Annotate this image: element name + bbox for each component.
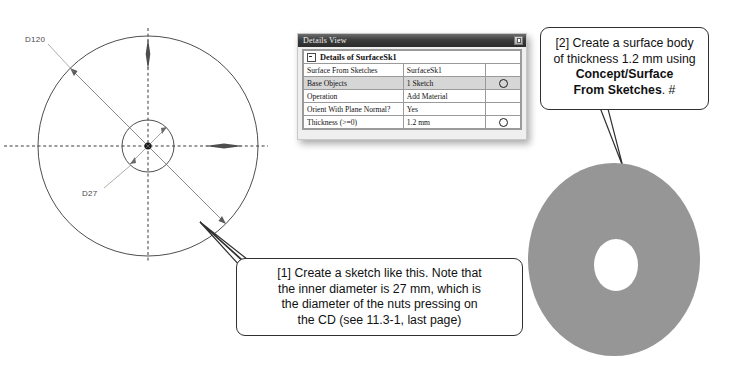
property-value[interactable]: 1 Sketch xyxy=(403,77,485,90)
callout-one: [1] Create a sketch like this. Note that… xyxy=(236,258,523,336)
property-value[interactable]: SurfaceSk1 xyxy=(403,64,485,77)
property-action xyxy=(486,103,521,116)
property-value[interactable]: Add Material xyxy=(403,90,485,103)
property-name: Operation xyxy=(304,90,404,103)
property-action xyxy=(486,116,521,129)
details-group-row: Details of SurfaceSk1 xyxy=(304,51,521,64)
callout-two-line-2: of thickness 1.2 mm using xyxy=(548,52,701,68)
details-table: Details of SurfaceSk1 Surface From Sketc… xyxy=(303,50,521,129)
callout-two-line-4: From Sketches xyxy=(574,83,662,97)
property-value[interactable]: 1.2 mm xyxy=(403,116,485,129)
details-group-cell: Details of SurfaceSk1 xyxy=(304,51,521,64)
details-view-body: Details of SurfaceSk1 Surface From Sketc… xyxy=(302,49,522,130)
inner-dimension-arrow-start xyxy=(130,157,136,164)
table-row: Orient With Plane Normal? Yes xyxy=(304,103,521,116)
details-view-title: Details View xyxy=(303,36,347,45)
surface-body-disk xyxy=(528,163,700,356)
inner-dimension-arrow-end xyxy=(161,127,167,134)
apply-circle-icon[interactable] xyxy=(499,79,508,88)
inner-dimension-label: D27 xyxy=(82,189,98,198)
apply-circle-icon[interactable] xyxy=(499,118,508,127)
callout-two-tail-shape xyxy=(599,105,623,167)
property-name: Surface From Sketches xyxy=(304,64,404,77)
disk-center-hole xyxy=(594,239,638,291)
details-view-titlebar: Details View xyxy=(298,34,526,47)
collapse-toggle-icon[interactable] xyxy=(307,53,316,62)
outer-dimension-label: D120 xyxy=(25,35,46,44)
callout-one-line-4: the CD (see 11.3-1, last page) xyxy=(245,313,514,329)
table-row: Operation Add Material xyxy=(304,90,521,103)
callout-two-line-1: [2] Create a surface body xyxy=(548,36,701,52)
pin-button[interactable] xyxy=(514,36,523,45)
table-row: Surface From Sketches SurfaceSk1 xyxy=(304,64,521,77)
property-action xyxy=(486,64,521,77)
callout-one-line-1: [1] Create a sketch like this. Note that xyxy=(245,266,514,282)
details-view-panel: Details View Details of SurfaceSk1 Surfa… xyxy=(297,33,527,140)
property-action xyxy=(486,90,521,103)
property-name: Thickness (>=0) xyxy=(304,116,404,129)
table-row: Thickness (>=0) 1.2 mm xyxy=(304,116,521,129)
callout-two: [2] Create a surface body of thickness 1… xyxy=(540,27,709,110)
property-name: Base Objects xyxy=(304,77,404,90)
cad-sketch-figure: D120 D27 xyxy=(0,0,300,300)
details-group-label: Details of SurfaceSk1 xyxy=(320,53,397,62)
property-action xyxy=(486,77,521,90)
inner-dimension-leader xyxy=(104,165,131,188)
outer-dimension-leader xyxy=(48,44,74,72)
cad-sketch-svg: D120 D27 xyxy=(0,0,300,300)
property-name: Orient With Plane Normal? xyxy=(304,103,404,116)
callout-two-line-4-tail: . # xyxy=(662,83,676,97)
table-row: Base Objects 1 Sketch xyxy=(304,77,521,90)
callout-one-line-2: the inner diameter is 27 mm, which is xyxy=(245,282,514,298)
callout-two-line-3: Concept/Surface xyxy=(576,67,674,81)
horizontal-axis-marker xyxy=(205,143,243,148)
vertical-axis-marker xyxy=(146,38,151,70)
property-value[interactable]: Yes xyxy=(403,103,485,116)
callout-one-line-3: the diameter of the nuts pressing on xyxy=(245,297,514,313)
